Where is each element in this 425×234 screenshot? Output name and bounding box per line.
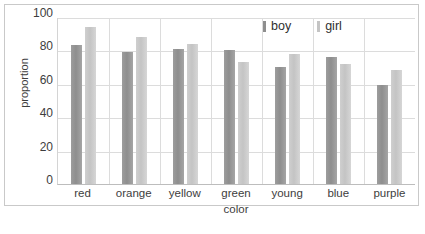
legend-swatch-icon [263,21,266,32]
bar-girl-red[interactable] [85,27,96,184]
bar-girl-purple[interactable] [391,70,402,184]
legend-entry-girl[interactable]: girl [317,19,342,33]
x-axis-tick-labels: redorangeyellowgreenyoungbluepurple [57,187,415,199]
bar-girl-yellow[interactable] [187,44,198,184]
bar-girl-young[interactable] [289,54,300,184]
x-tick-label: blue [313,187,364,199]
bar-group [313,18,364,184]
chart-frame: proportion 020406080100 redorangeyellowg… [4,4,419,206]
bar-group [109,18,160,184]
bar-group [262,18,313,184]
x-axis-title: color [57,203,415,215]
legend-swatch-icon [317,21,320,32]
y-tick-label: 0 [23,174,53,186]
bar-boy-green[interactable] [224,50,235,184]
bar-group [58,18,109,184]
y-tick-label: 40 [23,107,53,119]
x-tick-label: yellow [159,187,210,199]
y-tick-label: 60 [23,74,53,86]
bar-boy-yellow[interactable] [173,49,184,184]
y-tick-label: 20 [23,141,53,153]
bar-girl-green[interactable] [238,62,249,184]
y-tick-label: 100 [23,7,53,19]
bar-boy-young[interactable] [275,67,286,184]
bar-groups [58,18,415,184]
plot-area [57,18,415,185]
x-tick-label: red [57,187,108,199]
bar-girl-orange[interactable] [136,37,147,184]
legend-label: girl [325,19,342,33]
x-tick-label: purple [364,187,415,199]
x-tick-label: green [210,187,261,199]
bar-girl-blue[interactable] [340,64,351,184]
bar-boy-orange[interactable] [122,52,133,184]
bar-boy-purple[interactable] [377,85,388,184]
bar-boy-red[interactable] [71,45,82,184]
x-tick-label: orange [108,187,159,199]
bar-boy-blue[interactable] [326,57,337,184]
legend-label: boy [271,19,291,33]
bar-group [160,18,211,184]
y-tick-label: 80 [23,40,53,52]
legend-entry-boy[interactable]: boy [263,19,291,33]
bar-group [211,18,262,184]
bar-group [364,18,415,184]
x-tick-label: young [262,187,313,199]
y-axis-tick-labels: 020406080100 [23,13,53,185]
legend: boygirl [263,19,342,33]
